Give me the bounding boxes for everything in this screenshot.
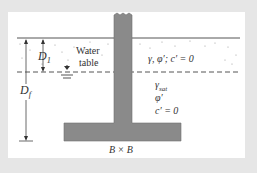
table-label: table [79,58,98,68]
cohesion-label: c′ = 0 [155,106,178,116]
upper-soil-properties: γ, φ′; c′ = 0 [148,54,194,64]
phi-label: φ′ [155,93,163,103]
d1-label: D1 [38,50,51,66]
df-label: Df [20,84,31,100]
footing-size-label: B × B [109,145,133,155]
footing [64,13,181,141]
water-label: Water [76,46,100,56]
